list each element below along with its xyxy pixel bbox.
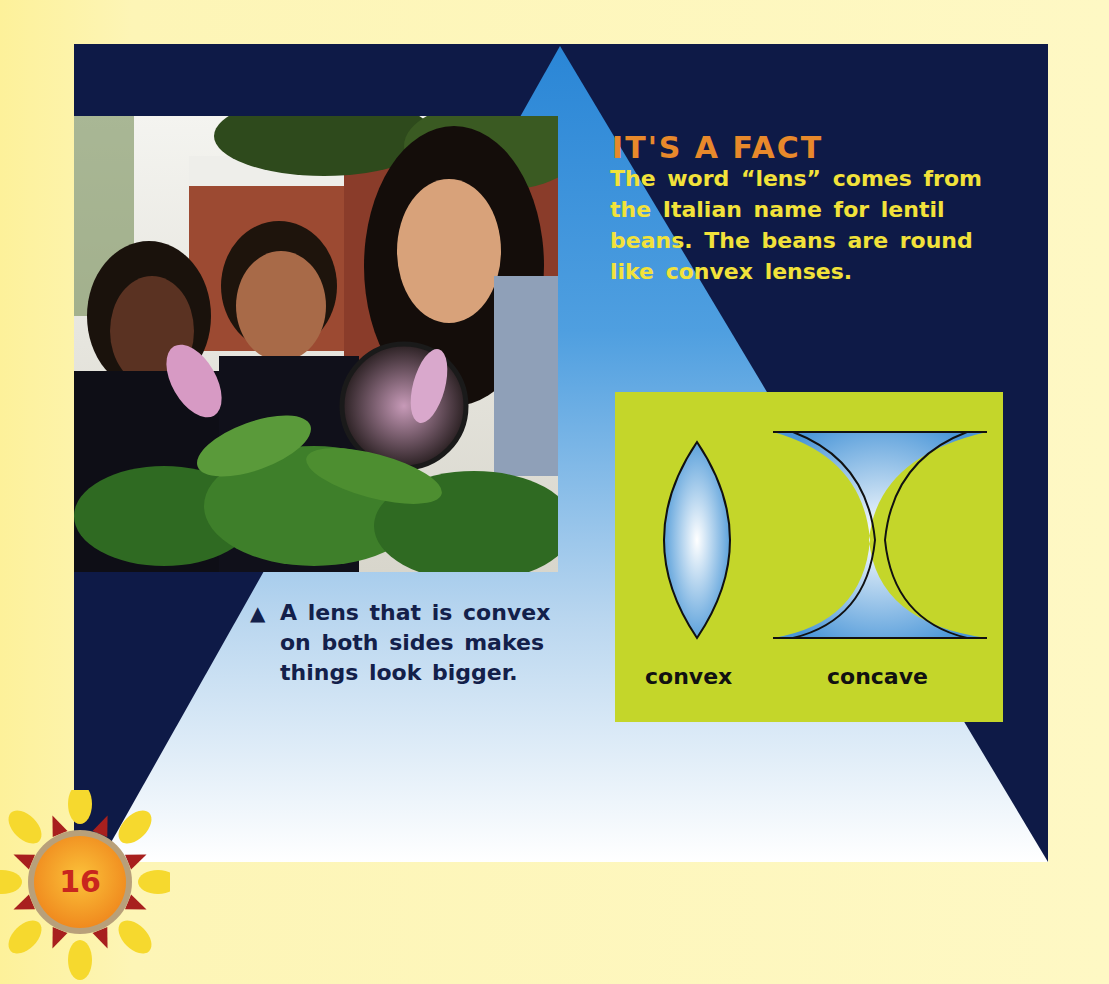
concave-lens-icon: [773, 432, 987, 638]
page-number: 16: [52, 864, 108, 899]
fact-body: The word “lens” comes from the Italian n…: [610, 163, 1010, 287]
classroom-photo: [74, 116, 558, 572]
lens-diagram: convex concave: [615, 392, 1003, 722]
convex-lens-icon: [664, 442, 730, 638]
concave-label: concave: [827, 664, 928, 689]
fact-title: IT'S A FACT: [612, 133, 823, 163]
photo-illustration: [74, 116, 558, 572]
caption-text: A lens that is convex on both sides make…: [250, 598, 570, 688]
convex-label: convex: [645, 664, 732, 689]
page-number-badge: 16: [0, 790, 170, 984]
photo-caption: ▲ A lens that is convex on both sides ma…: [250, 598, 570, 688]
caption-triangle-icon: ▲: [250, 598, 265, 628]
